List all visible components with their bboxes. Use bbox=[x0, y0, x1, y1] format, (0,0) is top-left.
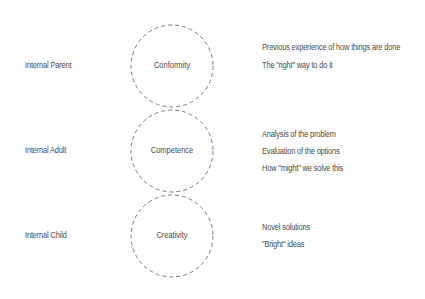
note-adult-3: How "might" we solve this bbox=[262, 163, 343, 173]
note-parent-1: Previous experience of how things are do… bbox=[262, 42, 400, 52]
left-label-adult: Internal Adult bbox=[25, 145, 66, 155]
circle-label-conformity: Conformity bbox=[154, 60, 190, 70]
note-child-2: "Bright" ideas bbox=[262, 239, 304, 249]
note-child-1: Novel solutions bbox=[262, 222, 310, 232]
circle-label-competence: Competence bbox=[151, 145, 193, 155]
left-label-child: Internal Child bbox=[25, 230, 67, 240]
left-label-parent: Internal Parent bbox=[25, 60, 71, 70]
note-adult-2: Evaluation of the options bbox=[262, 146, 340, 156]
circle-label-creativity: Creativity bbox=[156, 230, 187, 240]
note-parent-2: The "right" way to do it bbox=[262, 60, 333, 70]
note-adult-1: Analysis of the problem bbox=[262, 129, 336, 139]
